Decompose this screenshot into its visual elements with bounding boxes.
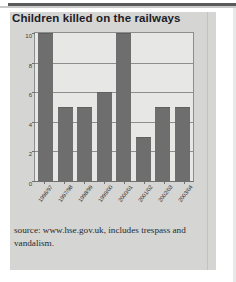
x-axis-tick-label: 2003/04: [177, 184, 194, 203]
bar: [38, 33, 53, 181]
bar: [58, 107, 73, 181]
x-axis-tick-mark: [44, 181, 45, 184]
bar: [97, 92, 112, 181]
bar-slot: [173, 33, 193, 181]
panel-seam-line: [207, 12, 208, 270]
x-axis-tick-label: 2001/02: [137, 184, 154, 203]
bar: [155, 107, 170, 181]
y-axis-tick-mark: [32, 151, 35, 152]
y-axis-tick-label: 10: [25, 33, 32, 39]
bar-series: [35, 33, 193, 181]
bar-slot: [56, 33, 76, 181]
plot-area: 0246810: [34, 32, 194, 182]
bar-slot: [75, 33, 95, 181]
bar-slot: [134, 33, 154, 181]
page-right-edge: [233, 8, 236, 282]
bar-slot: [114, 33, 134, 181]
bar-slot: [95, 33, 115, 181]
bar: [136, 137, 151, 181]
x-axis-tick-label: 1998/99: [77, 184, 94, 203]
x-axis-tick-mark: [124, 181, 125, 184]
bar: [77, 107, 92, 181]
y-axis-tick-mark: [32, 181, 35, 182]
x-axis-tick-label: 1997/98: [57, 184, 74, 203]
chart-title: Children killed on the railways: [12, 12, 192, 24]
x-axis-tick-mark: [104, 181, 105, 184]
x-axis-tick-label: 2000/01: [117, 184, 134, 203]
x-axis-tick-label: 2002/03: [157, 184, 174, 203]
x-axis-tick-mark: [144, 181, 145, 184]
x-axis-labels: 1996/971997/981998/991999/002000/012001/…: [34, 184, 194, 220]
x-axis-tick-label: 1996/97: [37, 184, 54, 203]
x-axis-tick-mark: [164, 181, 165, 184]
x-axis-tick-mark: [84, 181, 85, 184]
bar: [175, 107, 190, 181]
bar-slot: [153, 33, 173, 181]
y-axis-tick-mark: [32, 122, 35, 123]
x-axis-tick-mark: [64, 181, 65, 184]
bar-slot: [36, 33, 56, 181]
x-axis-tick-mark: [184, 181, 185, 184]
bar: [116, 33, 131, 181]
y-axis-tick-mark: [32, 63, 35, 64]
x-axis-tick-label: 1999/00: [97, 184, 114, 203]
top-divider-rule-secondary: [0, 6, 236, 8]
y-axis-tick-mark: [32, 92, 35, 93]
bar-chart: 0246810 1996/971997/981998/991999/002000…: [10, 32, 196, 182]
source-caption: source: www.hse.gov.uk, includes trespas…: [14, 224, 196, 251]
y-axis-tick-mark: [32, 33, 35, 34]
